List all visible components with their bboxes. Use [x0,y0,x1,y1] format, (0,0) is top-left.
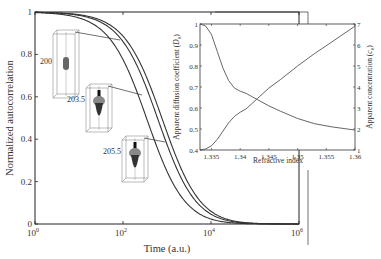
inset-right-tick-label: 7 [357,21,361,29]
inset-right-tick-label: 3 [357,105,361,113]
x-tick-label: 100 [27,227,39,238]
molecule-label: 200 [40,57,52,66]
molecule-tail-icon [95,103,103,116]
inset-left-tick-label: 0.4 [189,147,198,155]
molecule-label: 203.5 [67,95,85,104]
inset-left-tick-label: 0.9 [189,42,198,50]
molecule-stem-icon [98,90,101,97]
molecule-label: 205.5 [103,147,121,156]
rod-molecule-icon [63,57,69,70]
x-tick-label: 106 [291,227,303,238]
inset-x-tick-label: 1.335 [204,153,220,161]
y-tick-label: 1 [28,7,33,17]
leader-line [75,32,120,40]
y-tick-label: 0.4 [21,134,33,144]
inset-left-tick-label: 0.5 [189,126,198,134]
inset-connector-top [215,12,308,24]
x-tick-label: 104 [203,227,215,238]
inset-left-tick-label: 1 [195,21,199,29]
inset-left-tick-label: 0.7 [189,84,198,92]
inset-left-tick-label: 0.6 [189,105,198,113]
inset-x-tick-label: 1.355 [318,153,334,161]
inset-right-tick-label: 6 [357,42,361,50]
inset-x-axis-label: Refractive index [253,156,303,165]
inset-left-axis-label: Apparent diffusion coefficient (D0) [172,34,182,140]
inset-left-tick-label: 0.8 [189,63,198,71]
inset-x-tick-label: 1.34 [234,153,247,161]
x-tick-label: 102 [115,227,127,238]
inset-right-tick-label: 5 [357,63,361,71]
molecule-box-203_5: 203.5 [67,84,142,132]
inset-plot: 1.3351.341.3451.351.3551.360.40.50.60.70… [189,12,361,245]
molecule-tail-icon [131,155,139,168]
y-tick-label: 0.6 [21,92,33,102]
inset-right-tick-label: 2 [357,126,361,134]
y-tick-label: 0.8 [21,49,33,59]
main-x-axis-label: Time (a.u.) [144,243,191,255]
inset-right-axis-label: Apparent concentration (c0) [365,45,375,129]
main-y-axis-label: Normalized autocorrelation [4,59,15,175]
chart: 00.20.40.60.81100102104106 200203.5205.5… [0,0,381,259]
molecule-annotations: 200203.5205.5 [40,30,165,182]
molecule-stem-icon [134,142,137,149]
inset-right-tick-label: 1 [357,147,361,155]
y-tick-label: 0.2 [21,177,32,187]
inset-right-tick-label: 4 [357,84,361,92]
